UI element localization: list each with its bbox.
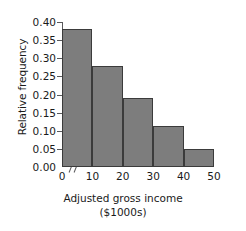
y-tick-label: 0.35	[22, 35, 56, 45]
x-tick-label: 0	[50, 170, 74, 182]
y-tick-mark	[57, 113, 62, 114]
y-tick-label: 0.25	[22, 71, 56, 81]
histogram-bar	[184, 149, 214, 167]
y-tick-label: 0.20	[22, 90, 56, 100]
histogram-bar	[123, 98, 153, 167]
y-tick-mark	[57, 58, 62, 59]
x-axis-title-line1: Adjusted gross income	[63, 192, 182, 204]
y-tick-mark	[57, 149, 62, 150]
y-tick-label: 0.10	[22, 126, 56, 136]
y-tick-label: 0.15	[22, 108, 56, 118]
bars-container	[62, 22, 214, 167]
y-tick-label: 0.40	[22, 17, 56, 27]
y-tick-label: 0.05	[22, 144, 56, 154]
x-axis-title: Adjusted gross income ($1000s)	[0, 191, 246, 219]
y-tick-mark	[57, 40, 62, 41]
y-tick-mark	[57, 76, 62, 77]
y-tick-mark	[57, 131, 62, 132]
histogram-bar	[153, 126, 183, 167]
x-tick-label: 10	[80, 170, 104, 182]
y-tick-label: 0.30	[22, 53, 56, 63]
y-tick-mark	[57, 95, 62, 96]
relative-frequency-histogram: Relative frequency 0.000.050.100.150.200…	[0, 0, 246, 231]
histogram-bar	[92, 66, 122, 167]
x-tick-label: 20	[111, 170, 135, 182]
x-tick-label: 30	[141, 170, 165, 182]
x-axis-title-line2: ($1000s)	[0, 205, 246, 219]
x-axis-tick-labels: 01020304050	[62, 170, 214, 184]
y-tick-mark	[57, 22, 62, 23]
x-tick-label: 50	[202, 170, 226, 182]
histogram-bar	[62, 29, 92, 167]
x-tick-label: 40	[172, 170, 196, 182]
